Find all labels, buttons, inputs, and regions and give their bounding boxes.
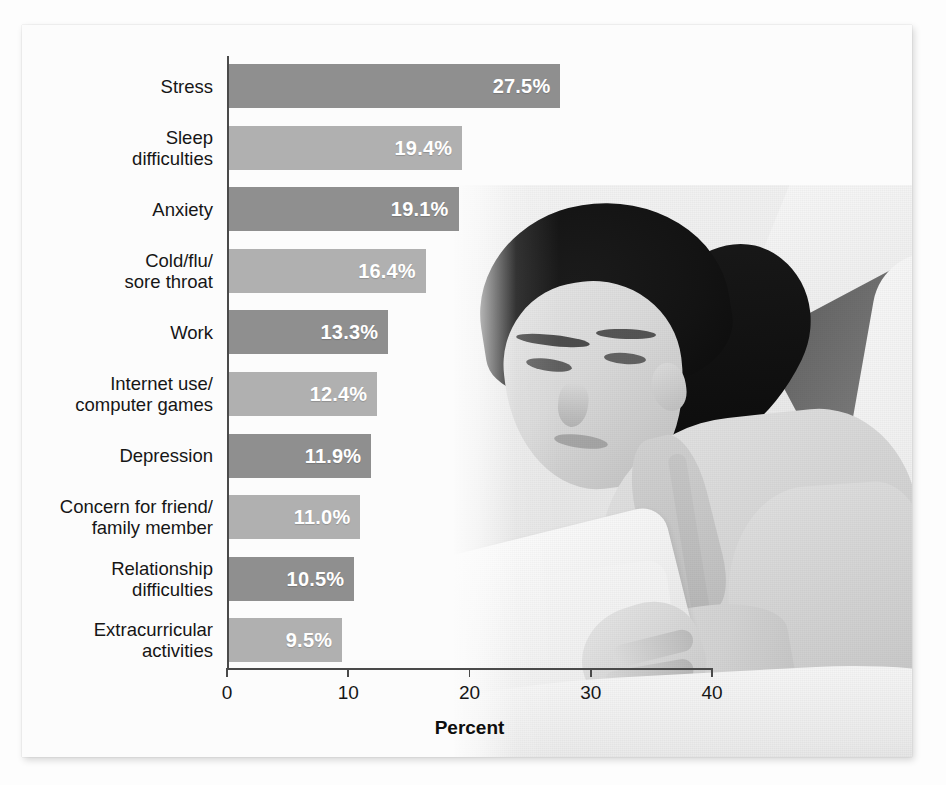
bar: 11.9% <box>227 434 371 478</box>
bar: 11.0% <box>227 495 360 539</box>
bar: 27.5% <box>227 64 560 108</box>
bar-value-label: 10.5% <box>287 567 345 590</box>
category-label: Sleep difficulties <box>22 127 213 169</box>
bar-value-label: 16.4% <box>358 259 416 282</box>
x-tick <box>469 668 471 677</box>
x-axis-title: Percent <box>435 717 505 739</box>
chart-panel: Percent 27.5%Stress19.4%Sleep difficulti… <box>22 25 912 757</box>
bar: 13.3% <box>227 310 388 354</box>
x-tick-label: 10 <box>338 682 359 704</box>
bar: 16.4% <box>227 249 426 293</box>
bar: 19.4% <box>227 126 462 170</box>
category-label: Internet use/ computer games <box>22 373 213 415</box>
bar: 12.4% <box>227 372 377 416</box>
x-tick-label: 0 <box>222 682 233 704</box>
bar-chart: Percent 27.5%Stress19.4%Sleep difficulti… <box>22 25 912 757</box>
category-label: Stress <box>22 76 213 97</box>
x-tick-label: 20 <box>459 682 480 704</box>
x-tick-label: 40 <box>701 682 722 704</box>
figure-root: Percent 27.5%Stress19.4%Sleep difficulti… <box>0 0 946 785</box>
bar-value-label: 27.5% <box>493 75 551 98</box>
bar: 10.5% <box>227 557 354 601</box>
x-tick <box>226 668 228 677</box>
x-tick <box>590 668 592 677</box>
bar-value-label: 12.4% <box>310 383 368 406</box>
category-label: Relationship difficulties <box>22 558 213 600</box>
bar-value-label: 13.3% <box>321 321 379 344</box>
bar-value-label: 9.5% <box>286 629 332 652</box>
category-label: Work <box>22 322 213 343</box>
category-label: Anxiety <box>22 199 213 220</box>
bar-value-label: 11.9% <box>305 444 362 467</box>
bar-value-label: 11.0% <box>294 506 351 529</box>
category-label: Extracurricular activities <box>22 619 213 661</box>
bar: 9.5% <box>227 618 342 662</box>
y-axis-spine <box>227 56 229 668</box>
category-label: Concern for friend/ family member <box>22 496 213 538</box>
category-label: Cold/flu/ sore throat <box>22 250 213 292</box>
x-tick <box>347 668 349 677</box>
x-tick <box>711 668 713 677</box>
category-label: Depression <box>22 445 213 466</box>
bar-value-label: 19.4% <box>395 136 453 159</box>
bar: 19.1% <box>227 187 459 231</box>
bar-value-label: 19.1% <box>391 198 449 221</box>
x-tick-label: 30 <box>580 682 601 704</box>
